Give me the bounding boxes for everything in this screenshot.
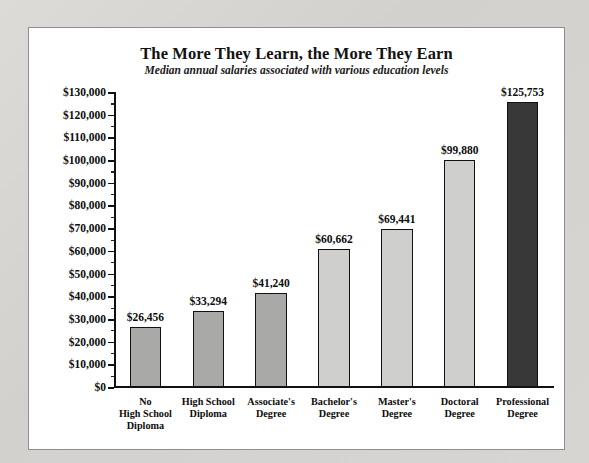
y-tick-major bbox=[108, 228, 114, 230]
y-tick-major bbox=[108, 364, 114, 366]
bar-value-label: $125,753 bbox=[501, 86, 544, 98]
y-axis-label: $80,000 bbox=[69, 199, 106, 211]
y-axis-label: $60,000 bbox=[69, 245, 106, 257]
y-axis-label: $20,000 bbox=[69, 336, 106, 348]
y-tick-minor bbox=[111, 171, 115, 172]
bar bbox=[381, 229, 412, 387]
y-axis-label: $50,000 bbox=[69, 268, 106, 280]
y-tick-minor bbox=[111, 149, 115, 150]
y-axis-label: $70,000 bbox=[69, 222, 106, 234]
y-axis-label: $120,000 bbox=[63, 109, 106, 121]
bar-value-label: $41,240 bbox=[252, 277, 289, 289]
y-tick-major bbox=[108, 137, 114, 139]
y-tick-minor bbox=[111, 262, 115, 263]
y-axis-label: $10,000 bbox=[69, 358, 106, 370]
bar-group: $26,456NoHigh SchoolDiploma bbox=[130, 92, 161, 387]
bar-group: $41,240Associate'sDegree bbox=[255, 92, 286, 387]
y-axis-label: $90,000 bbox=[69, 177, 106, 189]
bar bbox=[507, 102, 538, 387]
y-tick-minor bbox=[111, 330, 115, 331]
bar bbox=[318, 249, 349, 387]
chart-subtitle: Median annual salaries associated with v… bbox=[29, 64, 564, 76]
bar-group: $69,441Master'sDegree bbox=[381, 92, 412, 387]
y-axis-label: $40,000 bbox=[69, 290, 106, 302]
bar-group: $125,753ProfessionalDegree bbox=[507, 92, 538, 387]
y-tick-major bbox=[108, 92, 114, 94]
y-tick-minor bbox=[111, 353, 115, 354]
bar-value-label: $33,294 bbox=[190, 295, 227, 307]
y-tick-major bbox=[108, 274, 114, 276]
y-tick-minor bbox=[111, 126, 115, 127]
y-axis-label: $100,000 bbox=[63, 154, 106, 166]
y-axis-label: $130,000 bbox=[63, 86, 106, 98]
chart-title: The More They Learn, the More They Earn bbox=[29, 44, 564, 64]
x-axis-category-label: ProfessionalDegree bbox=[475, 396, 571, 420]
bar-value-label: $60,662 bbox=[315, 233, 352, 245]
y-tick-major bbox=[108, 183, 114, 185]
bar-group: $99,880DoctoralDegree bbox=[444, 92, 475, 387]
bar-value-label: $99,880 bbox=[441, 144, 478, 156]
bar-value-label: $69,441 bbox=[378, 213, 415, 225]
bar bbox=[130, 327, 161, 387]
y-tick-minor bbox=[111, 376, 115, 377]
y-tick-major bbox=[108, 296, 114, 298]
y-axis-label: $110,000 bbox=[64, 131, 107, 143]
bar bbox=[255, 293, 286, 387]
y-tick-major bbox=[108, 160, 114, 162]
y-tick-minor bbox=[111, 217, 115, 218]
y-tick-major bbox=[108, 319, 114, 321]
y-tick-major bbox=[108, 205, 114, 207]
bar-group: $33,294High SchoolDiploma bbox=[193, 92, 224, 387]
bar bbox=[193, 311, 224, 387]
y-tick-minor bbox=[111, 240, 115, 241]
bar-value-label: $26,456 bbox=[127, 311, 164, 323]
y-tick-minor bbox=[111, 103, 115, 104]
y-tick-major bbox=[108, 342, 114, 344]
y-tick-major bbox=[108, 251, 114, 253]
y-tick-minor bbox=[111, 308, 115, 309]
plot-area: $0$10,000$20,000$30,000$40,000$50,000$60… bbox=[114, 92, 554, 387]
bar bbox=[444, 160, 475, 387]
chart-panel: The More They Learn, the More They Earn … bbox=[28, 27, 565, 450]
y-tick-minor bbox=[111, 194, 115, 195]
y-axis-label: $0 bbox=[95, 381, 107, 393]
y-tick-major bbox=[108, 115, 114, 117]
bar-group: $60,662Bachelor'sDegree bbox=[318, 92, 349, 387]
y-tick-minor bbox=[111, 285, 115, 286]
y-tick-major bbox=[108, 387, 114, 389]
y-axis-label: $30,000 bbox=[69, 313, 106, 325]
y-axis-line bbox=[114, 92, 116, 387]
